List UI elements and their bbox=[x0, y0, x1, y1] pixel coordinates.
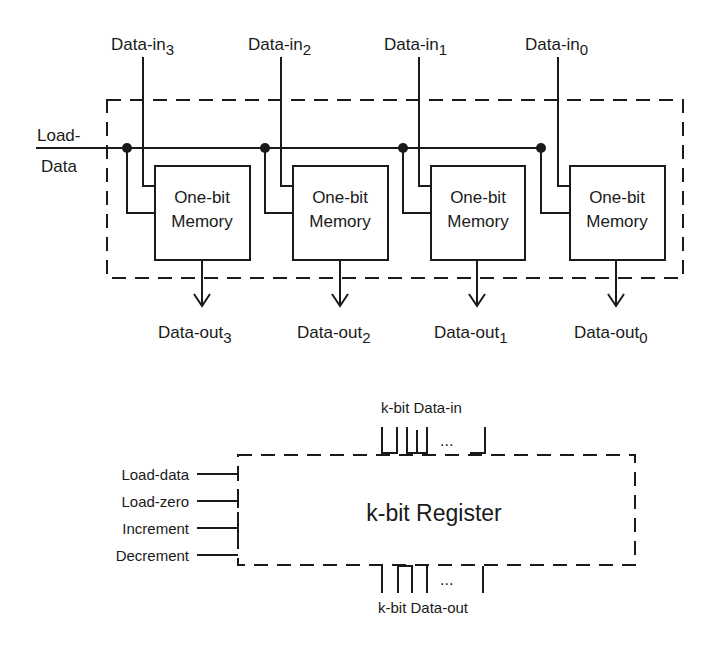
data-out-label: Data-out1 bbox=[434, 323, 508, 346]
cell-label-2: Memory bbox=[171, 212, 233, 231]
ellipsis: ... bbox=[440, 432, 453, 449]
k-bit-register-label: k-bit Register bbox=[366, 500, 502, 526]
k-bit-data-in-label: k-bit Data-in bbox=[381, 399, 462, 416]
four-bit-register: Load- Data One-bit Memory Data-in3 Data-… bbox=[36, 35, 683, 346]
data-in-label: Data-in2 bbox=[248, 35, 311, 58]
bit-cell-2: One-bit Memory Data-in2 Data-out2 bbox=[248, 35, 388, 346]
data-in-label: Data-in0 bbox=[525, 35, 588, 58]
cell-label-1: One-bit bbox=[450, 188, 506, 207]
load-branch-wire bbox=[127, 148, 155, 213]
data-out-label: Data-out3 bbox=[158, 323, 232, 346]
ellipsis: ... bbox=[440, 571, 453, 588]
data-in-pins: ... bbox=[382, 427, 485, 453]
data-out-pins: ... bbox=[382, 566, 483, 593]
data-in-wire bbox=[558, 57, 570, 186]
cell-label-1: One-bit bbox=[312, 188, 368, 207]
bit-cell-1: One-bit Memory Data-in1 Data-out1 bbox=[384, 35, 525, 346]
data-out-label: Data-out0 bbox=[574, 323, 648, 346]
data-in-label: Data-in1 bbox=[384, 35, 447, 58]
cell-label-1: One-bit bbox=[589, 188, 645, 207]
load-branch-wire bbox=[265, 148, 293, 213]
load-branch-wire bbox=[541, 148, 570, 213]
load-data-label-1: Load- bbox=[37, 126, 80, 145]
data-in-label: Data-in3 bbox=[111, 35, 174, 58]
control-load-data: Load-data bbox=[121, 466, 189, 483]
bit-cell-3: One-bit Memory Data-in3 Data-out3 bbox=[111, 35, 250, 346]
control-load-zero: Load-zero bbox=[121, 493, 189, 510]
register-diagram: Load- Data One-bit Memory Data-in3 Data-… bbox=[0, 0, 719, 648]
data-in-wire bbox=[419, 57, 431, 186]
load-data-label-2: Data bbox=[41, 157, 77, 176]
cell-label-2: Memory bbox=[586, 212, 648, 231]
control-decrement: Decrement bbox=[116, 547, 190, 564]
control-increment: Increment bbox=[122, 520, 190, 537]
load-branch-wire bbox=[403, 148, 431, 213]
control-inputs: Load-data Load-zero Increment Decrement bbox=[116, 466, 238, 564]
cell-label-1: One-bit bbox=[174, 188, 230, 207]
bit-cell-0: One-bit Memory Data-in0 Data-out0 bbox=[525, 35, 665, 346]
data-in-wire bbox=[281, 57, 293, 186]
data-out-label: Data-out2 bbox=[297, 323, 371, 346]
cell-label-2: Memory bbox=[309, 212, 371, 231]
cell-label-2: Memory bbox=[447, 212, 509, 231]
k-bit-data-out-label: k-bit Data-out bbox=[378, 599, 469, 616]
k-bit-register: k-bit Register k-bit Data-in ... ... k-b… bbox=[116, 399, 635, 616]
data-in-wire bbox=[143, 57, 155, 186]
